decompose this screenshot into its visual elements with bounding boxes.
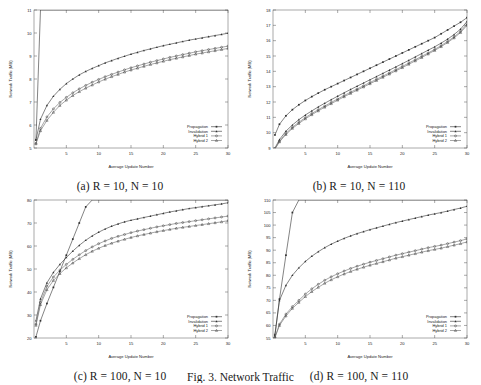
- svg-text:15: 15: [368, 341, 373, 346]
- svg-text:85: 85: [266, 260, 271, 265]
- svg-text:9: 9: [29, 54, 32, 59]
- svg-text:Average Update Number: Average Update Number: [108, 164, 154, 169]
- svg-text:10: 10: [27, 31, 32, 36]
- svg-text:5: 5: [304, 151, 307, 156]
- svg-text:30: 30: [226, 151, 231, 156]
- svg-text:75: 75: [266, 285, 271, 290]
- figure-network-traffic: 51015202530567891011Average Update Numbe…: [0, 0, 481, 385]
- chart-panel-b: 510152025309101112131415161718Average Up…: [243, 2, 475, 192]
- svg-text:20: 20: [400, 341, 405, 346]
- svg-text:13: 13: [266, 84, 271, 89]
- svg-text:9: 9: [268, 146, 271, 151]
- svg-text:25: 25: [193, 341, 198, 346]
- svg-text:30: 30: [465, 151, 470, 156]
- svg-text:5: 5: [304, 341, 307, 346]
- svg-text:80: 80: [266, 273, 271, 278]
- svg-text:40: 40: [27, 290, 32, 295]
- svg-text:80: 80: [27, 198, 32, 203]
- svg-text:Network Traffic (MB): Network Traffic (MB): [247, 250, 252, 288]
- svg-text:20: 20: [161, 151, 166, 156]
- plot-area-c: 5101520253020304050607080Average Update …: [4, 192, 236, 360]
- chart-panel-d: 51015202530556065707580859095100105110Av…: [243, 192, 475, 382]
- plot-area-d: 51015202530556065707580859095100105110Av…: [243, 192, 475, 360]
- svg-text:105: 105: [264, 210, 272, 215]
- svg-text:Network Traffic (MB): Network Traffic (MB): [8, 250, 13, 288]
- svg-text:20: 20: [161, 341, 166, 346]
- svg-text:17: 17: [266, 23, 271, 28]
- panel-caption-a: (a) R = 10, N = 10: [4, 180, 236, 192]
- chart-panel-a: 51015202530567891011Average Update Numbe…: [4, 2, 236, 192]
- svg-text:10: 10: [335, 151, 340, 156]
- svg-text:25: 25: [432, 151, 437, 156]
- svg-text:7: 7: [29, 100, 32, 105]
- svg-text:Network Traffic (MB): Network Traffic (MB): [8, 60, 13, 98]
- svg-text:15: 15: [129, 341, 134, 346]
- svg-text:Hybrid 2: Hybrid 2: [194, 138, 209, 143]
- svg-text:Hybrid 2: Hybrid 2: [433, 328, 448, 333]
- svg-text:10: 10: [335, 341, 340, 346]
- svg-text:18: 18: [266, 8, 271, 13]
- svg-text:30: 30: [465, 341, 470, 346]
- svg-text:95: 95: [266, 235, 271, 240]
- svg-text:30: 30: [226, 341, 231, 346]
- svg-text:100: 100: [264, 223, 272, 228]
- svg-text:110: 110: [264, 198, 271, 203]
- svg-text:Average Update Number: Average Update Number: [347, 354, 393, 359]
- svg-text:30: 30: [27, 313, 32, 318]
- svg-text:70: 70: [266, 298, 271, 303]
- svg-text:50: 50: [27, 267, 32, 272]
- svg-text:15: 15: [266, 54, 271, 59]
- svg-text:65: 65: [266, 310, 271, 315]
- svg-text:16: 16: [266, 38, 271, 43]
- figure-caption: Fig. 3. Network Traffic: [0, 371, 481, 383]
- svg-text:Hybrid 2: Hybrid 2: [433, 138, 448, 143]
- svg-text:11: 11: [27, 8, 32, 13]
- svg-text:5: 5: [65, 151, 68, 156]
- panel-caption-b: (b) R = 10, N = 110: [243, 180, 475, 192]
- svg-text:20: 20: [400, 151, 405, 156]
- svg-text:70: 70: [27, 221, 32, 226]
- svg-text:20: 20: [27, 336, 32, 341]
- svg-text:10: 10: [96, 151, 101, 156]
- svg-text:5: 5: [29, 146, 32, 151]
- svg-text:Network Traffic (MB): Network Traffic (MB): [247, 60, 252, 98]
- svg-text:10: 10: [266, 130, 271, 135]
- svg-text:90: 90: [266, 248, 271, 253]
- svg-text:25: 25: [432, 341, 437, 346]
- svg-text:11: 11: [266, 115, 271, 120]
- plot-area-b: 510152025309101112131415161718Average Up…: [243, 2, 475, 170]
- chart-panel-c: 5101520253020304050607080Average Update …: [4, 192, 236, 382]
- svg-text:14: 14: [266, 69, 271, 74]
- svg-text:55: 55: [266, 336, 271, 341]
- svg-text:5: 5: [65, 341, 68, 346]
- svg-text:10: 10: [96, 341, 101, 346]
- svg-text:6: 6: [29, 123, 32, 128]
- svg-text:Average Update Number: Average Update Number: [347, 164, 393, 169]
- svg-text:60: 60: [27, 244, 32, 249]
- svg-text:Hybrid 2: Hybrid 2: [194, 328, 209, 333]
- svg-text:60: 60: [266, 323, 271, 328]
- svg-text:Average Update Number: Average Update Number: [108, 354, 154, 359]
- svg-text:25: 25: [193, 151, 198, 156]
- svg-text:15: 15: [129, 151, 134, 156]
- svg-text:12: 12: [266, 100, 271, 105]
- svg-text:15: 15: [368, 151, 373, 156]
- plot-area-a: 51015202530567891011Average Update Numbe…: [4, 2, 236, 170]
- svg-text:8: 8: [29, 77, 32, 82]
